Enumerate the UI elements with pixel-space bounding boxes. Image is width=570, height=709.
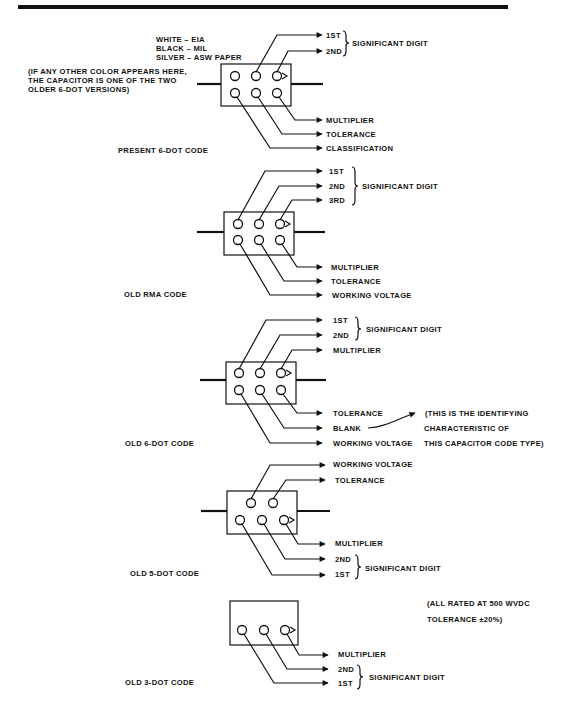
dot-1st (235, 369, 244, 378)
label-working-voltage: WORKING VOLTAGE (332, 291, 412, 300)
label-3rd: 3RD (329, 196, 345, 205)
section-old-5-dot: WORKING VOLTAGE TOLERANCE MULTIPLIER 2ND… (130, 460, 441, 579)
brace-icon (357, 665, 363, 689)
dot-multiplier (276, 236, 285, 245)
label-2nd: 2ND (335, 555, 351, 564)
dot-classification (231, 89, 240, 98)
dot-2nd (256, 369, 265, 378)
group-label: SIGNIFICANT DIGIT (365, 564, 441, 573)
brace-icon (355, 555, 361, 579)
brace-icon (343, 31, 349, 56)
color-key-white: WHITE – EIA (156, 35, 205, 44)
dot-tolerance (277, 386, 286, 395)
section-title: OLD RMA CODE (124, 290, 187, 299)
section-title: OLD 6-DOT CODE (125, 439, 194, 448)
label-1st: 1ST (326, 31, 341, 40)
dot-1st (238, 626, 247, 635)
note-line-3: THIS CAPACITOR CODE TYPE) (424, 439, 544, 448)
dot-tolerance (255, 236, 264, 245)
label-1st: 1ST (335, 570, 350, 579)
section-old-3-dot: MULTIPLIER 2ND 1ST SIGNIFICANT DIGIT (AL… (125, 599, 530, 689)
group-label: SIGNIFICANT DIGIT (352, 39, 428, 48)
label-2nd: 2ND (338, 665, 354, 674)
capacitor-color-code-diagram: WHITE – EIA BLACK – MIL SILVER – ASW PAP… (0, 0, 570, 709)
dot-2nd (255, 220, 264, 229)
dot-blank (256, 386, 265, 395)
label-1st: 1ST (338, 679, 353, 688)
section-old-6-dot: 1ST 2ND SIGNIFICANT DIGIT MULTIPLIER TOL… (125, 316, 544, 448)
dot-2nd (258, 516, 267, 525)
label-multiplier: MULTIPLIER (331, 263, 379, 272)
dot-1st (252, 72, 261, 81)
capacitor-body (230, 601, 298, 645)
label-multiplier: MULTIPLIER (338, 650, 386, 659)
color-key-silver: SILVER – ASW PAPER (156, 53, 242, 62)
dot-2nd (273, 72, 282, 81)
dot-working-voltage (247, 499, 256, 508)
dot-multiplier (281, 626, 290, 635)
label-tolerance: TOLERANCE (335, 476, 385, 485)
label-1st: 1ST (333, 316, 348, 325)
dot-2nd (260, 626, 269, 635)
label-1st: 1ST (329, 167, 344, 176)
section-title: OLD 5-DOT CODE (130, 569, 199, 578)
dot-multiplier (277, 369, 286, 378)
dot-tolerance (252, 89, 261, 98)
label-tolerance: TOLERANCE (326, 130, 376, 139)
label-multiplier: MULTIPLIER (335, 539, 383, 548)
section-title: PRESENT 6-DOT CODE (118, 146, 208, 155)
label-tolerance: TOLERANCE (331, 277, 381, 286)
note-line-3: OLDER 6-DOT VERSIONS) (28, 85, 130, 94)
label-working-voltage: WORKING VOLTAGE (333, 460, 413, 469)
capacitor-body (227, 491, 297, 534)
dot-1st (234, 220, 243, 229)
brace-icon (352, 167, 358, 205)
label-working-voltage: WORKING VOLTAGE (333, 439, 413, 448)
capacitor-body (224, 212, 294, 255)
note-line-2: CHARACTERISTIC OF (424, 424, 509, 433)
label-2nd: 2ND (326, 47, 342, 56)
dot-type (231, 72, 240, 81)
label-tolerance: TOLERANCE (333, 409, 383, 418)
label-blank: BLANK (333, 424, 361, 433)
label-2nd: 2ND (329, 182, 345, 191)
dot-3rd (276, 220, 285, 229)
label-2nd: 2ND (333, 331, 349, 340)
group-label: SIGNIFICANT DIGIT (366, 325, 442, 334)
dot-1st (236, 516, 245, 525)
color-key-black: BLACK – MIL (156, 44, 207, 53)
note-line-1: (ALL RATED AT 500 WVDC (427, 599, 530, 608)
label-classification: CLASSIFICATION (326, 144, 393, 153)
note-line-2: TOLERANCE ±20%) (427, 615, 503, 624)
dot-tolerance (269, 499, 278, 508)
note-line-2: THE CAPACITOR IS ONE OF THE TWO (28, 76, 177, 85)
section-present-6-dot: WHITE – EIA BLACK – MIL SILVER – ASW PAP… (28, 31, 428, 155)
label-multiplier: MULTIPLIER (333, 346, 381, 355)
section-title: OLD 3-DOT CODE (125, 678, 194, 687)
group-label: SIGNIFICANT DIGIT (369, 673, 445, 682)
dot-multiplier (273, 89, 282, 98)
dot-multiplier (280, 516, 289, 525)
group-label: SIGNIFICANT DIGIT (362, 182, 438, 191)
note-line-1: (THIS IS THE IDENTIFYING (425, 409, 529, 418)
brace-icon (355, 317, 361, 340)
note-line-1: (IF ANY OTHER COLOR APPEARS HERE, (28, 67, 187, 76)
label-multiplier: MULTIPLIER (326, 116, 374, 125)
dot-working-voltage (235, 386, 244, 395)
section-old-rma: 1ST 2ND 3RD SIGNIFICANT DIGIT MULTIPLIER… (124, 167, 438, 300)
dot-working-voltage (234, 236, 243, 245)
